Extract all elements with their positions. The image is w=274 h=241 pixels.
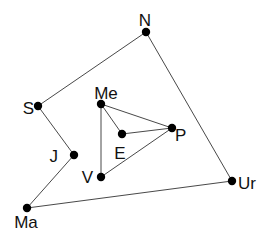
node-label-me: Me — [94, 84, 118, 103]
node-label-v: V — [82, 168, 94, 187]
node-ma — [23, 204, 31, 212]
node-label-j: J — [50, 147, 59, 166]
node-v — [97, 173, 105, 181]
node-label-ur: Ur — [238, 174, 256, 193]
node-j — [70, 151, 78, 159]
node-e — [118, 130, 126, 138]
node-label-ma: Ma — [14, 213, 38, 232]
node-label-n: N — [139, 11, 151, 30]
node-label-e: E — [114, 144, 125, 163]
node-label-p: P — [175, 126, 186, 145]
diagram-background — [0, 0, 274, 241]
node-s — [34, 102, 42, 110]
graph-diagram: NSMeEPJVUrMa — [0, 0, 274, 241]
node-ur — [228, 177, 236, 185]
node-label-s: S — [23, 99, 34, 118]
